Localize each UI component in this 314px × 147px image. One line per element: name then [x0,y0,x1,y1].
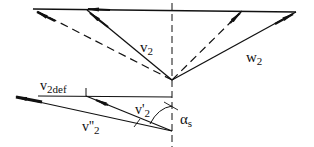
label-v2-double-prime: v''2 [82,119,100,136]
label-v2def: v2def [40,78,67,95]
v2-prime-arrowhead [96,100,108,105]
v2-dprime-arrowhead [16,97,42,102]
v2def-line [38,96,172,97]
velocity-triangle-diagram: v2 w2 v2def v'2 v''2 αs [0,0,314,147]
alpha-s-arc [150,106,172,124]
v2-arrowhead [90,13,108,27]
label-alpha-s: αs [180,111,192,129]
v2-dashed-arrowhead [37,12,55,21]
label-w2: w2 [246,49,262,67]
u2-arrow [88,9,110,10]
w2-arrowhead [275,14,293,24]
upper-velocity-triangle [33,3,296,147]
label-v2-prime: v'2 [135,102,150,119]
u2-line [33,9,296,12]
label-v2: v2 [140,39,153,57]
w2-dashed-arrowhead [230,13,240,23]
arc-tick-top [164,102,178,110]
